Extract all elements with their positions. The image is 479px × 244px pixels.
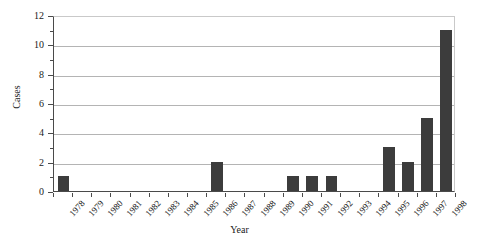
x-axis-tick-label: 1981 — [125, 199, 144, 218]
bar — [58, 176, 70, 191]
x-axis-tick-label: 1996 — [412, 199, 431, 218]
bar — [326, 176, 338, 191]
x-axis-tick-label: 1984 — [182, 199, 201, 218]
x-axis-tick — [53, 193, 54, 197]
x-axis-tick — [91, 193, 92, 197]
x-axis-tick — [149, 193, 150, 197]
bar — [440, 30, 452, 191]
x-axis-tick — [264, 193, 265, 197]
x-axis-tick-label: 1980 — [106, 199, 125, 218]
x-axis-tick-label: 1997 — [431, 199, 450, 218]
y-axis-tick-label: 10 — [4, 40, 44, 50]
y-axis-tick-label: 0 — [4, 187, 44, 197]
x-axis-title: Year — [0, 225, 479, 235]
bar-series — [54, 17, 454, 191]
y-axis-minor-tick — [50, 119, 53, 120]
x-axis-tick — [130, 193, 131, 197]
y-axis-minor-tick — [50, 60, 53, 61]
x-axis-tick — [436, 193, 437, 197]
x-axis-tick-label: 1995 — [393, 199, 412, 218]
x-axis-tick — [283, 193, 284, 197]
x-axis-tick-label: 1994 — [374, 199, 393, 218]
x-axis-tick-label: 1993 — [355, 199, 374, 218]
y-axis-minor-tick — [50, 31, 53, 32]
x-axis-tick — [359, 193, 360, 197]
bar — [383, 147, 395, 191]
x-axis-tick-label: 1979 — [87, 199, 106, 218]
y-axis-tick-label: 4 — [4, 128, 44, 138]
x-axis-tick — [321, 193, 322, 197]
y-axis-tick — [48, 163, 53, 164]
x-axis-tick — [187, 193, 188, 197]
x-axis-tick-label: 1992 — [336, 199, 355, 218]
y-axis-title: Cases — [12, 67, 22, 127]
x-axis-tick-label: 1986 — [221, 199, 240, 218]
x-axis-tick-label: 1978 — [68, 199, 87, 218]
x-axis-tick-label: 1988 — [259, 199, 278, 218]
y-axis-tick — [48, 133, 53, 134]
y-axis-tick-label: 12 — [4, 11, 44, 21]
x-axis-tick — [206, 193, 207, 197]
y-axis-tick-label: 6 — [4, 99, 44, 109]
x-axis-tick-label: 1983 — [163, 199, 182, 218]
y-axis-minor-tick — [50, 148, 53, 149]
y-axis-tick — [48, 104, 53, 105]
plot-area — [53, 16, 455, 192]
x-axis-tick-label: 1982 — [144, 199, 163, 218]
x-axis-tick-label: 1987 — [240, 199, 259, 218]
x-axis-tick — [168, 193, 169, 197]
y-axis-minor-tick — [50, 89, 53, 90]
x-axis-tick — [340, 193, 341, 197]
bar — [421, 118, 433, 191]
x-axis-tick — [378, 193, 379, 197]
x-axis-tick-label: 1985 — [202, 199, 221, 218]
x-axis-tick-label: 1998 — [450, 199, 469, 218]
y-axis-minor-tick — [50, 177, 53, 178]
bar-chart-figure: 024681012 Cases 197819791980198119821983… — [0, 0, 479, 244]
x-axis-tick-label: 1989 — [278, 199, 297, 218]
bar — [306, 176, 318, 191]
x-axis-tick — [110, 193, 111, 197]
y-axis-tick — [48, 45, 53, 46]
x-axis-tick — [72, 193, 73, 197]
bar — [287, 176, 299, 191]
x-axis-tick — [302, 193, 303, 197]
x-axis-tick — [455, 193, 456, 197]
y-axis-tick-label: 8 — [4, 70, 44, 80]
bar — [402, 162, 414, 191]
bar — [211, 162, 223, 191]
y-axis-tick — [48, 16, 53, 17]
x-axis-tick — [398, 193, 399, 197]
y-axis-tick — [48, 75, 53, 76]
x-axis-tick — [244, 193, 245, 197]
y-axis-tick-label: 2 — [4, 158, 44, 168]
x-axis-tick — [417, 193, 418, 197]
x-axis-tick — [225, 193, 226, 197]
x-axis-tick-label: 1991 — [316, 199, 335, 218]
x-axis-tick-label: 1990 — [297, 199, 316, 218]
